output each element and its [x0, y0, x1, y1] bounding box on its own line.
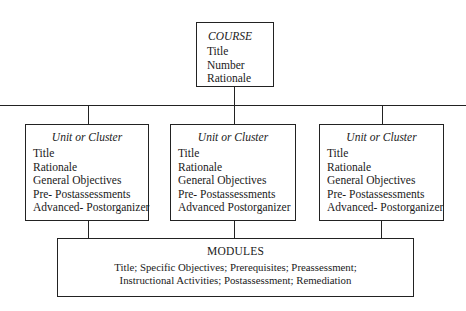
unit-item: Pre- Postassessments [327, 188, 443, 202]
modules-box: MODULES Title; Specific Objectives; Prer… [57, 238, 414, 297]
course-item: Title [207, 45, 273, 59]
connector-right-unit [382, 105, 383, 124]
unit-item: Pre- Postassessments [178, 188, 295, 202]
unit-item: General Objectives [327, 174, 443, 188]
connector-middle-modules [234, 221, 235, 238]
unit-item: Advanced- Postorganizer [327, 201, 443, 215]
unit-item: General Objectives [33, 174, 148, 188]
connector-horizontal-top [0, 105, 466, 106]
modules-line-2: Instructional Activities; Postassessment… [58, 274, 413, 287]
unit-item: Rationale [178, 161, 295, 175]
unit-item: Title [33, 147, 148, 161]
modules-title: MODULES [58, 244, 413, 258]
unit-title: Unit or Cluster [327, 130, 443, 144]
unit-title: Unit or Cluster [178, 130, 295, 144]
unit-item: Advanced Postorganizer [178, 201, 295, 215]
unit-item: Advanced- Postorganizer [33, 201, 148, 215]
unit-item: Title [327, 147, 443, 161]
unit-item: Title [178, 147, 295, 161]
course-item: Rationale [207, 72, 273, 86]
modules-line-1: Title; Specific Objectives; Prerequisite… [58, 261, 413, 274]
unit-box-left: Unit or Cluster Title Rationale General … [25, 124, 149, 221]
unit-item: General Objectives [178, 174, 295, 188]
connector-left-modules [88, 221, 89, 238]
unit-box-right: Unit or Cluster Title Rationale General … [319, 124, 444, 221]
unit-title: Unit or Cluster [33, 130, 148, 144]
course-box: COURSE Title Number Rationale [196, 22, 274, 87]
unit-box-middle: Unit or Cluster Title Rationale General … [170, 124, 296, 221]
unit-item: Rationale [33, 161, 148, 175]
connector-left-unit [88, 105, 89, 124]
unit-item: Rationale [327, 161, 443, 175]
course-title: COURSE [207, 29, 273, 43]
connector-right-modules [381, 221, 382, 238]
unit-item: Pre- Postassessments [33, 188, 148, 202]
course-item: Number [207, 59, 273, 73]
